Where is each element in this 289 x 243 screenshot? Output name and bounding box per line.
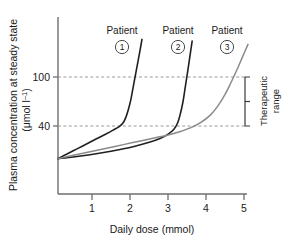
series-label-patient-1: Patient 1 (106, 25, 137, 54)
plot-svg: 100 40 1 2 3 4 5 Patient (0, 0, 289, 243)
badge-number-1: 1 (120, 42, 125, 52)
series-label-text-1: Patient (106, 25, 137, 36)
y-axis-unit-prefix: (μmol l (20, 100, 32, 132)
y-ticks-group: 100 40 (32, 71, 58, 132)
x-tick-label-1: 1 (89, 202, 95, 214)
y-tick-label-40: 40 (38, 120, 50, 132)
series-label-patient-3: Patient 3 (211, 25, 242, 54)
therapeutic-range-label-line1: Therapeutic (258, 76, 269, 126)
x-tick-label-3: 3 (165, 202, 171, 214)
y-tick-label-100: 100 (32, 71, 50, 83)
series-group (58, 39, 248, 158)
y-axis-unit: (μmol l–1) (20, 88, 32, 132)
series-label-patient-2: Patient 2 (162, 25, 193, 54)
x-tick-label-5: 5 (241, 202, 247, 214)
badge-number-2: 2 (176, 42, 181, 52)
series-label-text-3: Patient (211, 25, 242, 36)
chart-figure: 100 40 1 2 3 4 5 Patient (0, 0, 289, 243)
y-axis-unit-suffix: ) (20, 88, 32, 92)
therapeutic-range-annotation: Therapeutic range (245, 76, 281, 126)
therapeutic-range-label-line2: range (270, 89, 281, 113)
y-axis-title: Plasma concentration at steady state (7, 19, 19, 191)
x-tick-label-4: 4 (203, 202, 209, 214)
y-axis-unit-group: (μmol l–1) (20, 88, 32, 132)
gridlines-group (58, 77, 245, 126)
curve-patient-2 (58, 41, 192, 159)
x-tick-label-2: 2 (127, 202, 133, 214)
x-ticks-group: 1 2 3 4 5 (89, 194, 247, 214)
curve-patient-1 (58, 39, 142, 158)
badge-number-3: 3 (225, 42, 230, 52)
y-axis-unit-superscript: –1 (20, 92, 29, 100)
x-axis-title: Daily dose (mmol) (110, 223, 195, 235)
series-label-text-2: Patient (162, 25, 193, 36)
